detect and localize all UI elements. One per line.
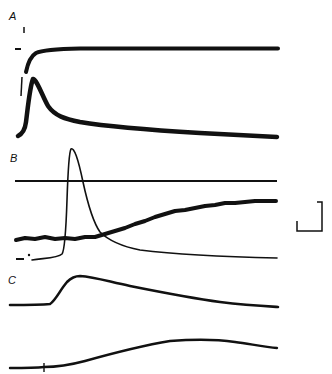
scale-bar-lines [297,202,322,231]
panel-label-b: B [10,152,17,164]
panel-c-upper-trace [10,276,278,307]
panel-a: A [8,10,278,137]
panel-label-a: A [8,10,16,22]
panel-c: C [8,274,278,372]
panel-b-dot [28,254,30,256]
figure: A B C [0,0,332,374]
panel-label-c: C [8,274,16,286]
panel-a-lower-trace [18,79,277,137]
scale-bar [297,202,322,231]
panel-c-lower-trace [10,340,277,368]
panel-b: B [10,149,277,260]
panel-b-slow-noisy-trace [16,201,276,240]
rise-segment [21,77,22,96]
panel-a-upper-trace [26,48,278,72]
